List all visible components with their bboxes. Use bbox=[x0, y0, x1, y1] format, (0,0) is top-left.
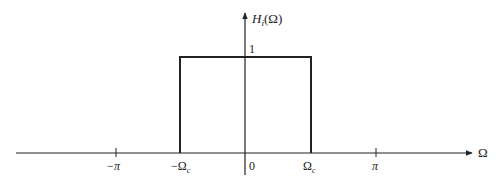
tick-label-omega-c: Ωc bbox=[303, 159, 316, 175]
tick-label-minus-pi: −π bbox=[106, 159, 121, 173]
amplitude-label: 1 bbox=[249, 42, 255, 56]
tick-label-zero: 0 bbox=[249, 159, 255, 173]
y-axis-label: Hi(Ω) bbox=[251, 11, 282, 28]
x-axis-label: Ω bbox=[478, 145, 488, 160]
tick-label-pi: π bbox=[372, 159, 379, 173]
tick-label-minus-omega-c: −Ωc bbox=[171, 159, 191, 175]
lowpass-filter-diagram: Hi(Ω) 1 Ω −π −Ωc 0 Ωc π bbox=[0, 0, 500, 186]
